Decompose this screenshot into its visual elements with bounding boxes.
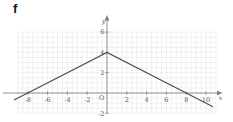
- x-tick-label: 4: [145, 96, 149, 104]
- x-tick-label: -6: [44, 96, 50, 104]
- y-tick-label: 2: [100, 69, 104, 77]
- x-tick-label: 8: [184, 96, 188, 104]
- y-axis-label: y: [101, 17, 106, 25]
- tick-labels: -8-6-4-2246810-2246Oxy: [25, 17, 223, 118]
- x-tick-label: 6: [164, 96, 168, 104]
- x-axis-label: x: [219, 94, 223, 102]
- graph-figure: f -8-6-4-2246810-2246Oxy: [0, 0, 233, 122]
- origin-label: O: [99, 94, 104, 102]
- function-graph: -8-6-4-2246810-2246Oxy: [0, 0, 233, 122]
- x-tick-label: 2: [125, 96, 129, 104]
- y-tick-label: -2: [98, 110, 104, 118]
- y-tick-label: 6: [100, 28, 104, 36]
- x-tick-label: 10: [202, 96, 210, 104]
- x-tick-label: -8: [25, 96, 31, 104]
- x-tick-label: -2: [84, 96, 90, 104]
- x-tick-label: -4: [64, 96, 70, 104]
